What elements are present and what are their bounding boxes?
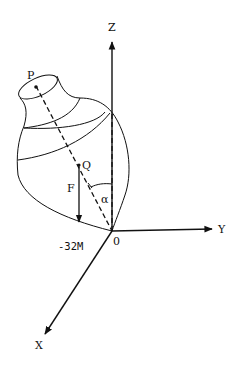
y-axis xyxy=(112,229,212,231)
point-p-dot xyxy=(34,85,38,89)
label-origin: 0 xyxy=(113,235,120,248)
label-q: Q xyxy=(82,159,91,172)
angle-arc xyxy=(91,184,112,187)
label-weight: -32M xyxy=(58,240,83,252)
label-alpha: α xyxy=(101,193,109,206)
label-y: Y xyxy=(217,223,226,236)
label-x: X xyxy=(35,339,43,352)
vase-diagram: Z Y X 0 P Q F -32M α xyxy=(0,0,238,368)
label-f: F xyxy=(67,182,75,195)
label-z: Z xyxy=(108,21,116,34)
label-p: P xyxy=(27,69,35,82)
